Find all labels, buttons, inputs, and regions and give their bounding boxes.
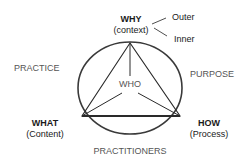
what-title: WHAT (20, 118, 70, 128)
why-title: WHY (116, 14, 146, 24)
spoke-right (138, 93, 180, 116)
practitioners-label: PRACTITIONERS (86, 146, 174, 156)
purpose-label: PURPOSE (190, 69, 234, 79)
how-title: HOW (194, 118, 224, 128)
how-subtitle: (Process) (186, 129, 232, 139)
what-subtitle: (Content) (16, 129, 74, 139)
branch-inner-label: Inner (174, 34, 195, 44)
spoke-left (82, 93, 122, 116)
branch-outer (152, 18, 166, 24)
why-subtitle: (context) (106, 25, 156, 35)
who-label: WHO (114, 79, 146, 89)
branch-outer-label: Outer (172, 12, 195, 22)
practice-label: PRACTICE (14, 63, 60, 73)
